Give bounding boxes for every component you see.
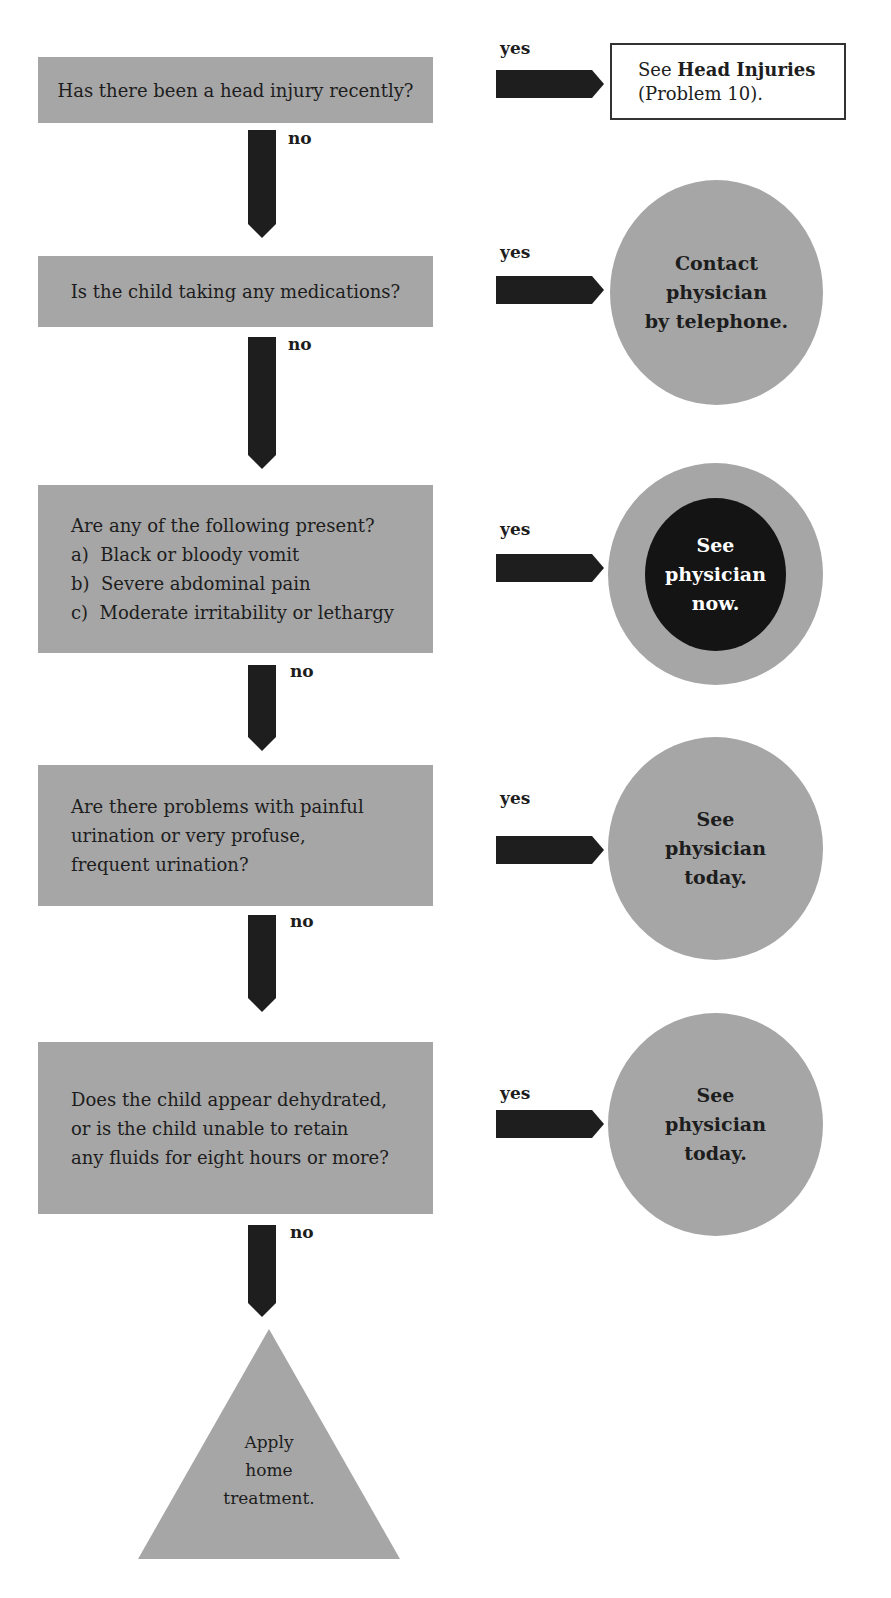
- question-box-head-injury: Has there been a head injury recently?: [38, 57, 433, 123]
- yes-arrow-icon: [496, 554, 604, 582]
- outcome-see-physician-now: See physician now.: [608, 463, 823, 685]
- outcome-line: physician: [665, 1110, 766, 1139]
- outcome-line: treatment.: [138, 1484, 400, 1512]
- outcome-line: physician: [665, 560, 766, 589]
- outcome-line: physician: [665, 834, 766, 863]
- yes-label: yes: [500, 1083, 530, 1103]
- no-label: no: [290, 661, 314, 681]
- no-arrow-icon: [248, 665, 276, 751]
- no-arrow-icon: [248, 915, 276, 1012]
- outcome-line: now.: [692, 589, 740, 618]
- outcome-line: home: [138, 1456, 400, 1484]
- outcome-see-head-injuries: See Head Injuries (Problem 10).: [610, 43, 846, 120]
- no-label: no: [288, 128, 312, 148]
- question-box-symptoms: Are any of the following present? a) Bla…: [38, 485, 433, 653]
- question-text: or is the child unable to retain: [71, 1114, 389, 1143]
- outcome-line: See: [665, 805, 766, 834]
- outcome-reference-title: Head Injuries: [677, 59, 815, 80]
- question-box-urination: Are there problems with painful urinatio…: [38, 765, 433, 906]
- question-text: Are any of the following present?: [71, 511, 394, 540]
- urgent-inner-circle: See physician now.: [645, 498, 786, 651]
- outcome-line: by telephone.: [645, 307, 788, 336]
- outcome-line: Apply: [138, 1428, 400, 1456]
- question-text: Are there problems with painful: [71, 792, 364, 821]
- outcome-prefix: See: [638, 59, 677, 80]
- no-label: no: [288, 334, 312, 354]
- outcome-apply-home-treatment: Apply home treatment.: [138, 1428, 400, 1512]
- outcome-see-physician-today: See physician today.: [608, 1013, 823, 1236]
- outcome-line: See: [665, 1081, 766, 1110]
- outcome-line: today.: [665, 1139, 766, 1168]
- outcome-see-physician-today: See physician today.: [608, 737, 823, 960]
- no-label: no: [290, 911, 314, 931]
- outcome-line: today.: [665, 863, 766, 892]
- yes-arrow-icon: [496, 70, 604, 98]
- yes-arrow-icon: [496, 836, 604, 864]
- no-label: no: [290, 1222, 314, 1242]
- yes-arrow-icon: [496, 1110, 604, 1138]
- yes-arrow-icon: [496, 276, 604, 304]
- question-box-dehydration: Does the child appear dehydrated, or is …: [38, 1042, 433, 1214]
- question-text: urination or very profuse,: [71, 821, 364, 850]
- outcome-line: physician: [645, 278, 788, 307]
- yes-label: yes: [500, 788, 530, 808]
- question-text: Has there been a head injury recently?: [57, 76, 413, 105]
- yes-label: yes: [500, 38, 530, 58]
- outcome-line: See: [697, 531, 735, 560]
- question-text: Does the child appear dehydrated,: [71, 1085, 389, 1114]
- no-arrow-icon: [248, 1225, 276, 1317]
- no-arrow-icon: [248, 130, 276, 238]
- outcome-contact-physician-telephone: Contact physician by telephone.: [610, 180, 823, 405]
- yes-label: yes: [500, 242, 530, 262]
- question-text: any fluids for eight hours or more?: [71, 1143, 389, 1172]
- outcome-reference-problem: (Problem 10).: [638, 82, 844, 106]
- question-text: Is the child taking any medications?: [71, 277, 401, 306]
- yes-label: yes: [500, 519, 530, 539]
- question-text: frequent urination?: [71, 850, 364, 879]
- no-arrow-icon: [248, 337, 276, 469]
- question-option-a: a) Black or bloody vomit: [71, 540, 394, 569]
- question-option-c: c) Moderate irritability or lethargy: [71, 598, 394, 627]
- question-box-medications: Is the child taking any medications?: [38, 256, 433, 327]
- outcome-line: Contact: [645, 249, 788, 278]
- question-option-b: b) Severe abdominal pain: [71, 569, 394, 598]
